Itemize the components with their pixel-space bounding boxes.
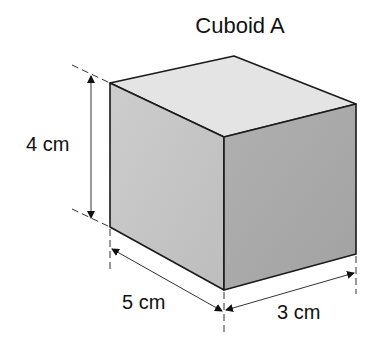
right-face [224, 104, 356, 290]
cuboid-diagram: Cuboid A 4 cm 5 cm 3 cm [0, 0, 375, 355]
length-label: 5 cm [122, 291, 165, 313]
height-label: 4 cm [26, 133, 69, 155]
height-dimension [72, 65, 110, 227]
diagram-title: Cuboid A [195, 13, 285, 38]
width-label: 3 cm [277, 301, 320, 323]
cuboid [110, 56, 356, 290]
